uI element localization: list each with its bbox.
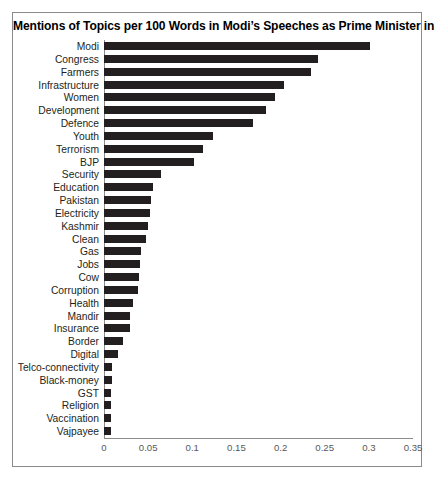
bar-row: Mandir [104,310,413,323]
bar-row: Security [104,168,413,181]
plot-area: ModiCongressFarmersInfrastructureWomenDe… [104,40,413,438]
category-label: Terrorism [56,143,99,156]
x-tick-label: 0.2 [274,442,287,453]
bar-row: Farmers [104,66,413,79]
bar-row: Corruption [104,284,413,297]
bar [104,196,151,204]
bar [104,145,203,153]
bar [104,273,139,281]
category-label: Black-money [39,374,99,387]
category-label: Electricity [55,207,99,220]
bar-row: Women [104,91,413,104]
chart-container: Mentions of Topics per 100 Words in Modi… [12,12,422,467]
category-label: Health [69,297,99,310]
bar-row: Congress [104,53,413,66]
category-label: Insurance [54,322,99,335]
bar [104,299,133,307]
bar-row: Defence [104,117,413,130]
bar [104,337,123,345]
x-tick-label: 0.3 [362,442,375,453]
bar [104,312,130,320]
bar [104,209,150,217]
bar [104,401,111,409]
bar [104,235,146,243]
bar [104,427,111,435]
category-label: Education [53,181,99,194]
category-label: Security [62,168,99,181]
x-tick-label: 0.1 [186,442,199,453]
bar [104,247,141,255]
category-label: Vajpayee [57,425,99,438]
category-label: Corruption [51,284,99,297]
bar-row: Gas [104,245,413,258]
bar-row: Pakistan [104,194,413,207]
bar [104,363,112,371]
category-label: Clean [72,233,99,246]
category-label: Youth [73,130,99,143]
bar-row: Black-money [104,374,413,387]
bar-row: Terrorism [104,143,413,156]
category-label: Congress [55,53,99,66]
category-label: Modi [77,40,99,53]
bar [104,324,130,332]
bar [104,132,213,140]
x-tick-label: 0.35 [404,442,423,453]
bar [104,106,266,114]
x-tick-label: 0.05 [139,442,158,453]
category-label: Vaccination [47,412,99,425]
bar-row: Insurance [104,322,413,335]
bar-row: Health [104,297,413,310]
category-label: Women [64,91,99,104]
category-label: BJP [80,156,99,169]
bar [104,68,311,76]
bar-row: Vajpayee [104,425,413,438]
bar-row: Vaccination [104,412,413,425]
bar-row: Modi [104,40,413,53]
bar-row: Youth [104,130,413,143]
category-label: Development [38,104,99,117]
bar [104,119,253,127]
bar [104,222,148,230]
bar-row: Cow [104,271,413,284]
bar [104,42,370,50]
bar-row: GST [104,387,413,400]
bar [104,93,275,101]
category-label: Kashmir [61,220,99,233]
bar [104,170,161,178]
category-label: Gas [80,245,99,258]
bar [104,286,138,294]
category-label: Defence [61,117,99,130]
bar-row: Border [104,335,413,348]
bar-row: Electricity [104,207,413,220]
category-label: Digital [70,348,99,361]
bar [104,389,111,397]
bar [104,183,153,191]
chart-title: Mentions of Topics per 100 Words in Modi… [13,19,423,33]
bar [104,414,111,422]
bar [104,350,118,358]
category-label: Religion [62,399,99,412]
bar [104,55,318,63]
x-tick-label: 0.25 [315,442,334,453]
bar-row: Kashmir [104,220,413,233]
category-label: Jobs [77,258,99,271]
bar [104,260,140,268]
x-tick-label: 0.15 [227,442,246,453]
bar-row: Telco-connectivity [104,361,413,374]
category-label: Border [68,335,99,348]
category-label: Farmers [61,66,99,79]
bar [104,376,112,384]
bar [104,81,284,89]
category-label: Telco-connectivity [18,361,99,374]
category-label: Cow [78,271,99,284]
x-tick-label: 0 [101,442,106,453]
bar-row: Digital [104,348,413,361]
category-label: Mandir [68,310,99,323]
bar-row: Clean [104,233,413,246]
bar [104,158,194,166]
bar-row: Religion [104,399,413,412]
bar-row: Infrastructure [104,79,413,92]
bar-row: BJP [104,156,413,169]
bar-row: Education [104,181,413,194]
bar-row: Jobs [104,258,413,271]
